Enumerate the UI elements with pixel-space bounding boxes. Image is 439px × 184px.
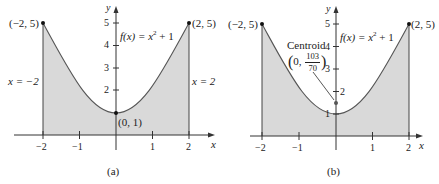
centroid-title: Centroid bbox=[287, 40, 326, 51]
vertex-marker bbox=[114, 111, 118, 115]
centroid-x: 0, bbox=[293, 55, 301, 67]
panel-b bbox=[250, 6, 423, 150]
point-left-label: (−2, 5) bbox=[228, 19, 258, 30]
function-label: f(x) = x2 + 1 bbox=[340, 31, 394, 43]
y-tick-label: 3 bbox=[325, 64, 330, 74]
x-axis-arrow-icon bbox=[208, 133, 215, 138]
point-right-label: (2, 5) bbox=[192, 18, 216, 29]
x-tick-label: −2 bbox=[255, 143, 266, 153]
point-left-marker bbox=[41, 21, 45, 25]
y-axis-arrow-icon bbox=[114, 6, 119, 13]
centroid-coordinates: (0, 103 70 ) bbox=[288, 52, 326, 72]
x-axis-label: x bbox=[419, 140, 424, 151]
figure-canvas bbox=[0, 0, 439, 184]
y-tick-label: 5 bbox=[325, 19, 330, 29]
y-axis-label: y bbox=[326, 4, 330, 14]
x-tick-label: 1 bbox=[150, 142, 155, 152]
x-tick-label: −1 bbox=[292, 143, 303, 153]
y-tick-label: 3 bbox=[104, 63, 109, 73]
line-left-label: x = −2 bbox=[8, 76, 39, 87]
point-right-marker bbox=[187, 21, 191, 25]
y-tick-label: 4 bbox=[104, 40, 109, 50]
centroid-marker bbox=[334, 101, 338, 105]
function-tail: + 1 bbox=[157, 30, 174, 42]
y-tick-label: 5 bbox=[104, 18, 109, 28]
x-axis-arrow-icon bbox=[416, 134, 423, 139]
function-fx: f(x) bbox=[340, 31, 355, 43]
x-tick-label: −2 bbox=[36, 142, 47, 152]
x-tick-label: 1 bbox=[370, 143, 375, 153]
x-tick-label: 2 bbox=[186, 142, 191, 152]
centroid-y-fraction: 103 70 bbox=[305, 52, 320, 72]
y-tick-label: 2 bbox=[340, 87, 345, 97]
y-tick-label: 4 bbox=[325, 42, 330, 52]
line-right-label: x = 2 bbox=[192, 76, 215, 87]
panel-a bbox=[14, 6, 215, 150]
function-fx: f(x) bbox=[120, 30, 135, 42]
x-axis-label: x bbox=[211, 139, 216, 150]
point-left-label: (−2, 5) bbox=[9, 18, 39, 29]
centroid-numerator: 103 bbox=[305, 52, 320, 63]
y-tick-label: 2 bbox=[104, 85, 109, 95]
caption-a: (a) bbox=[107, 166, 119, 177]
function-eq: = x bbox=[355, 31, 373, 43]
x-tick-label: 2 bbox=[406, 143, 411, 153]
y-axis-arrow-icon bbox=[334, 6, 339, 13]
centroid-leader-line bbox=[313, 72, 334, 100]
point-right-label: (2, 5) bbox=[411, 19, 435, 30]
y-axis-label: y bbox=[106, 3, 110, 13]
function-tail: + 1 bbox=[377, 31, 394, 43]
centroid-denominator: 70 bbox=[308, 63, 317, 73]
caption-b: (b) bbox=[327, 166, 340, 177]
vertex-label: (0, 1) bbox=[118, 117, 142, 128]
function-eq: = x bbox=[135, 30, 153, 42]
y-tick-label: 1 bbox=[325, 109, 330, 119]
x-tick-label: −1 bbox=[72, 142, 83, 152]
function-label: f(x) = x2 + 1 bbox=[120, 30, 174, 42]
point-left-marker bbox=[260, 22, 264, 26]
